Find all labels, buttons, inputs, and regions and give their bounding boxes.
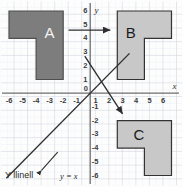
y-tick--5: -5 [92, 158, 99, 166]
y-tick-6: 6 [83, 7, 87, 15]
x-tick-5: 5 [148, 97, 152, 105]
y-tick-3: 3 [83, 48, 87, 56]
x-axis-label: x [173, 82, 177, 91]
x-tick--6: -6 [6, 97, 13, 105]
y-tick-1: 1 [83, 76, 87, 84]
y-tick--1: -1 [92, 103, 99, 111]
x-tick--5: -5 [19, 97, 26, 105]
x-tick--3: -3 [46, 97, 53, 105]
y-tick--2: -2 [92, 117, 99, 125]
y-tick-4: 4 [83, 35, 87, 43]
y-tick-2: 2 [83, 62, 87, 70]
shape-b[interactable] [117, 11, 171, 80]
x-tick--4: -4 [33, 97, 40, 105]
coordinate-grid-figure: -6 -5 -4 -3 -2 -1 1 2 3 4 5 6 6 5 4 3 2 … [0, 0, 183, 187]
y-tick--6: -6 [92, 172, 99, 180]
line-callout-leader [42, 152, 58, 170]
x-tick--2: -2 [60, 97, 67, 105]
line-caption-equation: y = x [60, 172, 78, 181]
x-tick-6: 6 [161, 97, 165, 105]
y-tick-5: 5 [83, 21, 87, 29]
x-tick--1: -1 [73, 97, 80, 105]
shape-a[interactable] [9, 11, 63, 80]
shape-c[interactable] [117, 121, 171, 176]
origin-label: 0 [84, 85, 88, 93]
x-tick-2: 2 [107, 97, 111, 105]
y-axis-label: y [95, 6, 99, 15]
line-y-equals-x [6, 53, 129, 178]
y-tick--4: -4 [92, 144, 99, 152]
y-tick--3: -3 [92, 131, 99, 139]
line-caption-text: Y llinell [5, 171, 33, 180]
x-tick-3: 3 [121, 97, 125, 105]
x-tick-4: 4 [134, 97, 138, 105]
